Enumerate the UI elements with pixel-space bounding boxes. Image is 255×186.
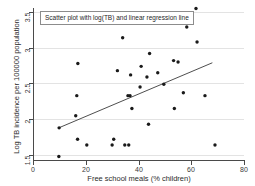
data-point [128, 94, 131, 97]
data-point [194, 7, 197, 10]
data-point [176, 60, 179, 63]
data-point [173, 107, 176, 110]
data-point [129, 73, 132, 76]
data-point [74, 114, 77, 117]
data-point [185, 25, 188, 28]
data-point [138, 85, 141, 88]
data-point [121, 36, 124, 39]
data-point [130, 107, 133, 110]
data-point [57, 155, 60, 158]
data-point [172, 59, 175, 62]
data-point [85, 143, 88, 146]
regression-line [59, 63, 213, 128]
data-point [195, 40, 198, 43]
data-point [76, 138, 79, 141]
data-point [147, 123, 150, 126]
data-point [148, 52, 151, 55]
data-point [156, 71, 159, 74]
data-point [76, 62, 79, 65]
data-point [123, 143, 126, 146]
data-point [213, 143, 216, 146]
data-point [145, 75, 148, 78]
plot-series-layer [0, 0, 255, 186]
data-point [162, 83, 165, 86]
scatter-chart-figure: 3.5 3 2.5 2 1.5 0 20 40 60 80 Log TB inc… [0, 0, 255, 186]
chart-annotation-box: Scatter plot with log(TB) and linear reg… [40, 11, 194, 25]
data-point [116, 69, 119, 72]
data-point [182, 91, 185, 94]
data-point [139, 65, 142, 68]
data-point-group [57, 7, 217, 158]
data-point [57, 126, 60, 129]
data-point [110, 143, 113, 146]
data-point [75, 94, 78, 97]
data-point [112, 138, 115, 141]
data-point [127, 143, 130, 146]
data-point [203, 94, 206, 97]
